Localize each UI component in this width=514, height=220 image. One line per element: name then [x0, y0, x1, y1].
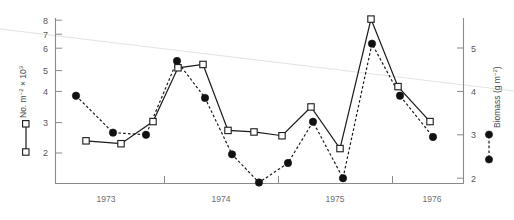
data-point-biomass	[368, 40, 375, 47]
data-point-number-density	[118, 141, 124, 147]
left-tick-6: 6	[43, 44, 48, 54]
left-axis-title-main: No. m	[18, 95, 28, 118]
data-point-biomass	[228, 151, 235, 158]
left-tick-7: 7	[43, 30, 48, 40]
left-tick-4: 4	[43, 87, 48, 97]
data-point-number-density	[308, 104, 314, 110]
data-point-biomass	[201, 94, 208, 101]
data-point-number-density	[150, 118, 156, 124]
trend-line	[0, 29, 514, 91]
data-point-number-density	[337, 145, 343, 151]
right-tick-2: 2	[471, 174, 476, 184]
data-point-number-density	[368, 16, 374, 22]
chart-canvas: 8 7 6 5 4 3 2 No. m−2 × 103	[0, 0, 514, 220]
left-axis: 8 7 6 5 4 3 2	[43, 16, 62, 184]
line-biomass	[76, 44, 433, 183]
left-tick-2: 2	[43, 148, 48, 158]
x-tick-1973: 1973	[97, 194, 116, 204]
x-tick-1975: 1975	[326, 194, 345, 204]
left-tick-5: 5	[43, 66, 48, 76]
left-tick-3: 3	[43, 118, 48, 128]
legend-left-marker	[23, 121, 29, 156]
x-tick-1974: 1974	[212, 194, 231, 204]
series-biomass	[72, 40, 436, 186]
left-axis-title-exp2: 3	[18, 65, 24, 69]
left-axis-title: No. m−2 × 103	[18, 65, 29, 118]
data-point-biomass	[109, 129, 116, 136]
x-tick-1976: 1976	[423, 194, 442, 204]
right-axis-title-tail: )	[492, 66, 502, 69]
legend-right-marker	[485, 131, 492, 163]
data-point-number-density	[395, 83, 401, 89]
data-point-number-density	[175, 65, 181, 71]
right-axis-title: Biomass (g m−2)	[492, 66, 503, 128]
svg-text:No. m−2 × 103: No. m−2 × 103	[18, 65, 29, 118]
right-tick-5: 5	[471, 44, 476, 54]
chart-figure: 8 7 6 5 4 3 2 No. m−2 × 103	[0, 0, 514, 220]
svg-text:Biomass (g m−2): Biomass (g m−2)	[492, 66, 503, 128]
data-point-biomass	[339, 175, 346, 182]
right-axis-title-main: Biomass (g m	[492, 76, 502, 128]
data-point-number-density	[251, 129, 257, 135]
line-number-density	[86, 19, 430, 148]
data-point-biomass	[309, 118, 316, 125]
series-number-density	[83, 16, 433, 152]
data-point-biomass	[284, 159, 291, 166]
data-point-number-density	[427, 118, 433, 124]
right-tick-3: 3	[471, 130, 476, 140]
data-point-number-density	[200, 61, 206, 67]
right-axis: 5 4 3 2	[457, 18, 476, 184]
data-point-biomass	[72, 92, 79, 99]
data-point-biomass	[429, 133, 436, 140]
data-point-number-density	[279, 133, 285, 139]
data-point-number-density	[83, 138, 89, 144]
data-point-number-density	[225, 127, 231, 133]
left-axis-title-mid: × 10	[18, 69, 28, 88]
data-point-biomass	[255, 179, 262, 186]
data-point-biomass	[396, 92, 403, 99]
data-point-biomass	[173, 57, 180, 64]
right-tick-4: 4	[471, 87, 476, 97]
left-tick-8: 8	[43, 16, 48, 26]
data-point-biomass	[142, 131, 149, 138]
